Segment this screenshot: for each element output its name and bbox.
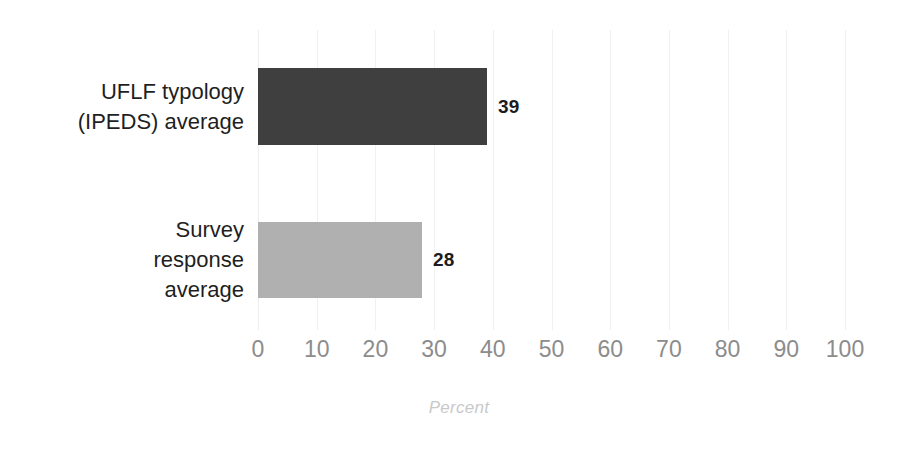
- bar-value-label: 39: [498, 96, 520, 118]
- category-label-uflf-typology-ipeds-average: UFLF typology (IPEDS) average: [14, 77, 244, 137]
- x-axis-title: Percent: [0, 398, 918, 418]
- bar-uflf-typology-ipeds-average: [258, 68, 487, 145]
- x-tick-label-70: 70: [656, 336, 682, 363]
- x-tick-label-30: 30: [421, 336, 447, 363]
- category-label-survey-response-average: Survey response average: [14, 215, 244, 305]
- bar-value-label: 28: [433, 249, 455, 271]
- gridline-100: [845, 30, 846, 330]
- x-tick-label-20: 20: [363, 336, 389, 363]
- x-tick-label-0: 0: [252, 336, 265, 363]
- x-tick-label-100: 100: [826, 336, 864, 363]
- plot-area: 39 28: [258, 30, 845, 330]
- x-tick-label-10: 10: [304, 336, 330, 363]
- bar-survey-response-average: [258, 222, 422, 298]
- x-tick-label-80: 80: [715, 336, 741, 363]
- bar-row: 39: [258, 68, 845, 145]
- x-tick-label-60: 60: [597, 336, 623, 363]
- bar-row: 28: [258, 222, 845, 298]
- bar-chart: 39 28 UFLF typology (IPEDS) average Surv…: [0, 0, 918, 452]
- x-tick-label-40: 40: [480, 336, 506, 363]
- x-tick-label-50: 50: [539, 336, 565, 363]
- category-label-wrap: UFLF typology (IPEDS) average: [8, 68, 244, 145]
- category-label-wrap: Survey response average: [8, 222, 244, 298]
- x-tick-label-90: 90: [774, 336, 800, 363]
